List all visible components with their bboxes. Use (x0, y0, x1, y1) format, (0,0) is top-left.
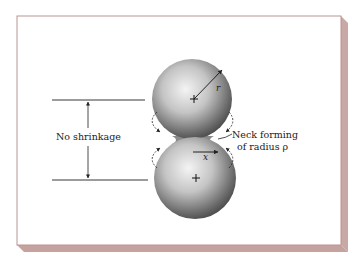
x-label: x (203, 152, 208, 162)
diagram-figure: No shrinkage Neck forming of radius ρ r … (0, 0, 360, 266)
radius-label: r (216, 83, 220, 93)
no-shrinkage-label: No shrinkage (56, 131, 121, 142)
neck-label-line1: Neck forming (232, 129, 298, 140)
sintering-diagram (0, 0, 360, 266)
neck-label-line2: of radius ρ (237, 141, 288, 152)
